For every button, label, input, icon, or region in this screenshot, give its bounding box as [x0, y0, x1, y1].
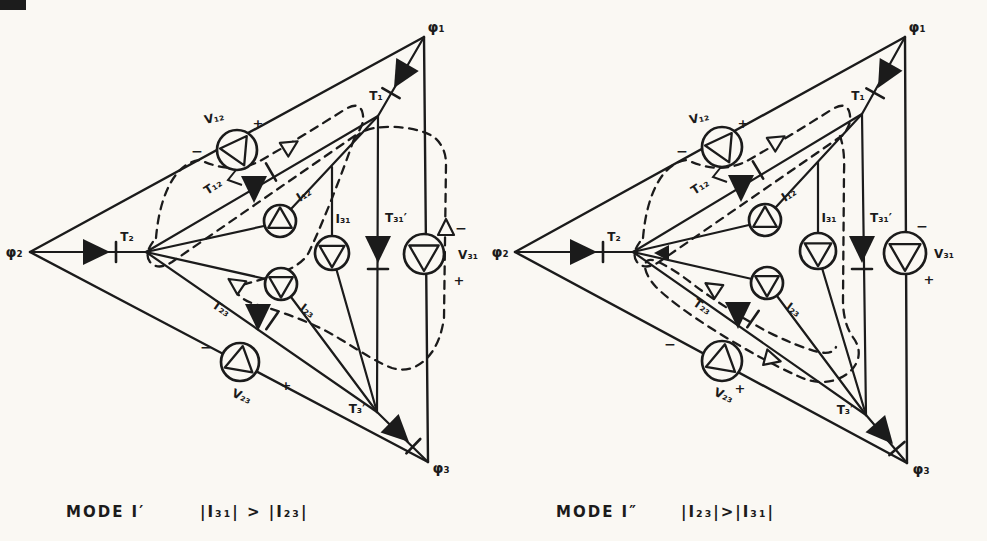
wire: [377, 116, 378, 412]
label-phi3: φ₃: [432, 460, 449, 476]
current-source-I12: [749, 204, 781, 236]
converter-mode-circuit-figure: φ₁φ₂φ₃T₁T₂T₁₂T₂₃T₃₁′T₃′V₁₂V₂₃V₃₁I₁₂I₃₁I₂…: [0, 0, 987, 541]
label-phi3: φ₃: [912, 461, 929, 477]
voltage-source-V23: [702, 341, 742, 381]
current-source-I31: [315, 236, 349, 270]
label-t1: T₁: [369, 89, 382, 103]
label-i31: I₃₁: [822, 211, 837, 225]
source-circle: [751, 267, 783, 299]
source-circle: [315, 236, 349, 270]
source-circle: [800, 233, 836, 269]
voltage-source-V31: [884, 232, 926, 274]
caption-condition-right: |I₂₃|>|I₃₁|: [681, 503, 775, 522]
source-circle: [884, 232, 926, 274]
paper-background: [0, 0, 987, 541]
voltage-source-V23: [221, 343, 259, 381]
voltage-source-V31: [404, 234, 444, 274]
voltage-source-V12: [702, 127, 742, 167]
label-v31_pos: +: [924, 272, 935, 287]
label-phi1: φ₁: [427, 19, 444, 35]
scanned-figure-page: φ₁φ₂φ₃T₁T₂T₁₂T₂₃T₃₁′T₃′V₁₂V₂₃V₃₁I₁₂I₃₁I₂…: [0, 0, 987, 541]
label-v23_pos: +: [735, 381, 746, 396]
label-v31: V₃₁: [934, 247, 954, 261]
caption-mode-right: MODE I″: [556, 503, 638, 521]
source-circle: [265, 268, 297, 300]
label-t3p: T₃′: [837, 403, 854, 417]
voltage-source-V12: [217, 130, 257, 170]
label-v12_pos: +: [253, 116, 264, 131]
label-v31: V₃₁: [458, 248, 478, 262]
label-v12_neg: −: [191, 143, 203, 159]
label-phi2: φ₂: [5, 244, 22, 260]
label-v23_neg: −: [664, 336, 676, 352]
label-t2: T₂: [607, 230, 620, 244]
scan-artifact: [0, 0, 26, 10]
caption-mode-left: MODE I′: [66, 503, 145, 521]
label-v12_pos: +: [738, 116, 749, 131]
label-t31p: T₃₁′: [385, 211, 407, 225]
label-phi2: φ₂: [491, 244, 508, 260]
source-circle: [264, 205, 296, 237]
label-v23_pos: +: [281, 378, 292, 393]
label-v31_neg: −: [455, 220, 467, 236]
label-v12_neg: −: [676, 143, 688, 159]
label-v31_neg: −: [916, 218, 928, 234]
label-i31: I₃₁: [336, 212, 351, 226]
caption-condition-left: |I₃₁| > |I₂₃|: [200, 503, 308, 522]
source-circle: [404, 234, 444, 274]
current-source-I31: [800, 233, 836, 269]
label-phi1: φ₁: [908, 19, 925, 35]
current-source-I23: [751, 267, 783, 299]
label-t31p: T₃₁′: [870, 211, 892, 225]
current-source-I23: [265, 268, 297, 300]
label-t3p: T₃′: [349, 402, 366, 416]
label-t2: T₂: [120, 230, 133, 244]
label-v31_pos: +: [454, 273, 465, 288]
current-source-I12: [264, 205, 296, 237]
source-circle: [749, 204, 781, 236]
label-t1: T₁: [851, 89, 864, 103]
label-v23_neg: −: [200, 339, 212, 355]
